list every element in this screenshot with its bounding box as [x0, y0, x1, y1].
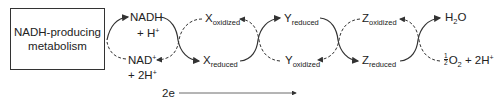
- z-reduced-label: Zreduced: [362, 54, 396, 68]
- box-line-2: metabolism: [14, 39, 101, 53]
- arrow-oxygen-to-z-oxidized: [400, 19, 440, 61]
- y-reduced-letter: Y: [284, 12, 292, 24]
- water-o: O: [457, 11, 466, 23]
- fraction-denominator: 2: [444, 60, 448, 66]
- arrow-x-reduced-to-y-reduced: [240, 18, 280, 61]
- oxygen-label: 12O2 + 2H+: [444, 54, 494, 68]
- oxygen-proton-text: + 2H: [462, 54, 490, 66]
- x-oxidized-letter: X: [205, 12, 213, 24]
- box-line-1: NADH-producing: [14, 25, 101, 39]
- arrow-y-oxidized-to-x-oxidized: [240, 19, 280, 61]
- x-reduced-letter: X: [203, 54, 211, 66]
- one-half-fraction: 12: [444, 53, 448, 66]
- y-oxidized-state: oxidized: [293, 60, 321, 69]
- electron-flow-label: 2e: [162, 87, 175, 100]
- nad-proton-label: + 2H+: [128, 69, 157, 83]
- x-reduced-state: reduced: [211, 60, 238, 69]
- z-reduced-letter: Z: [362, 54, 369, 66]
- y-oxidized-letter: Y: [285, 54, 293, 66]
- oxygen-o: O: [449, 54, 458, 66]
- nadh-proton-text: + H: [137, 27, 155, 39]
- arrow-z-oxidized-to-y-oxidized: [318, 19, 360, 60]
- nadh-proton-label: + H+: [137, 27, 159, 41]
- y-oxidized-label: Yoxidized: [285, 54, 320, 68]
- water-sub: 2: [453, 17, 457, 26]
- nad-sup: +: [152, 54, 156, 61]
- z-oxidized-state: oxidized: [369, 18, 397, 27]
- arrow-nad-to-metabolism: [107, 42, 126, 59]
- nad-proton-sup: +: [153, 69, 157, 76]
- arrow-x-oxidized-to-nad: [157, 19, 202, 60]
- z-oxidized-letter: Z: [362, 12, 369, 24]
- nadh-text: NADH: [130, 11, 163, 23]
- x-oxidized-state: oxidized: [213, 18, 241, 27]
- nad-text: NAD: [128, 54, 152, 66]
- oxygen-proton-sup: +: [490, 54, 494, 61]
- nadh-proton-sup: +: [155, 27, 159, 34]
- oxygen-sub: 2: [458, 60, 462, 69]
- nad-proton-text: + 2H: [128, 69, 153, 81]
- nadh-label: NADH: [130, 11, 163, 24]
- y-reduced-state: reduced: [292, 18, 319, 27]
- y-reduced-label: Yreduced: [284, 12, 319, 26]
- arrow-metabolism-to-nadh: [107, 17, 128, 40]
- x-reduced-label: Xreduced: [203, 54, 238, 68]
- z-reduced-state: reduced: [369, 60, 396, 69]
- arrow-z-reduced-to-water: [400, 18, 440, 61]
- nadh-producing-metabolism-box: NADH-producing metabolism: [10, 8, 105, 70]
- water-label: H2O: [445, 11, 466, 25]
- x-oxidized-label: Xoxidized: [205, 12, 240, 26]
- z-oxidized-label: Zoxidized: [362, 12, 397, 26]
- nad-label: NAD+: [128, 54, 156, 68]
